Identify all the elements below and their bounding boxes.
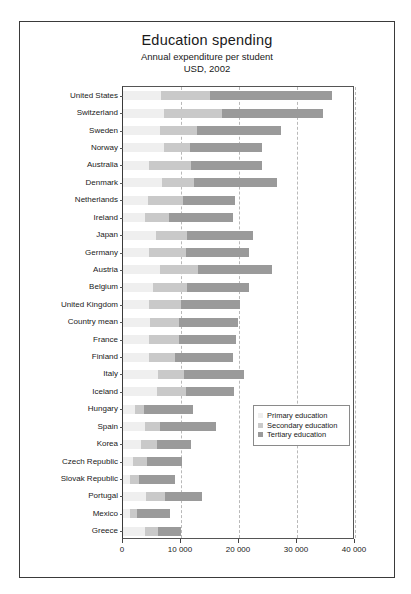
stacked-bar[interactable]: [123, 231, 253, 240]
stacked-bar[interactable]: [123, 248, 249, 257]
bar-segment-secondary[interactable]: [149, 161, 191, 170]
stacked-bar[interactable]: [123, 161, 262, 170]
bar-segment-secondary[interactable]: [133, 457, 147, 466]
bar-segment-secondary[interactable]: [150, 318, 180, 327]
bar-segment-primary[interactable]: [123, 300, 149, 309]
stacked-bar[interactable]: [123, 422, 216, 431]
bar-segment-tertiary[interactable]: [181, 300, 240, 309]
bar-segment-primary[interactable]: [123, 335, 149, 344]
stacked-bar[interactable]: [123, 178, 277, 187]
stacked-bar[interactable]: [123, 509, 170, 518]
bar-segment-secondary[interactable]: [156, 231, 187, 240]
bar-segment-secondary[interactable]: [146, 492, 165, 501]
bar-segment-tertiary[interactable]: [198, 265, 272, 274]
bar-segment-tertiary[interactable]: [190, 143, 263, 152]
bar-segment-tertiary[interactable]: [184, 370, 244, 379]
stacked-bar[interactable]: [123, 405, 193, 414]
bar-segment-tertiary[interactable]: [165, 492, 203, 501]
stacked-bar[interactable]: [123, 265, 272, 274]
bar-segment-primary[interactable]: [123, 422, 145, 431]
bar-segment-primary[interactable]: [123, 265, 160, 274]
bar-segment-tertiary[interactable]: [186, 387, 234, 396]
bar-segment-primary[interactable]: [123, 318, 150, 327]
bar-segment-primary[interactable]: [123, 440, 141, 449]
legend-item[interactable]: Tertiary education: [258, 431, 344, 439]
bar-segment-primary[interactable]: [123, 509, 130, 518]
stacked-bar[interactable]: [123, 283, 249, 292]
bar-segment-tertiary[interactable]: [169, 213, 233, 222]
bar-segment-tertiary[interactable]: [158, 527, 181, 536]
stacked-bar[interactable]: [123, 387, 234, 396]
stacked-bar[interactable]: [123, 196, 235, 205]
bar-segment-secondary[interactable]: [153, 283, 188, 292]
bar-segment-tertiary[interactable]: [187, 231, 254, 240]
bar-segment-primary[interactable]: [123, 475, 130, 484]
bar-segment-secondary[interactable]: [135, 405, 144, 414]
stacked-bar[interactable]: [123, 91, 332, 100]
bar-segment-primary[interactable]: [123, 143, 164, 152]
bar-segment-tertiary[interactable]: [191, 161, 262, 170]
stacked-bar[interactable]: [123, 527, 181, 536]
bar-segment-primary[interactable]: [123, 231, 156, 240]
bar-segment-tertiary[interactable]: [157, 440, 192, 449]
bar-segment-primary[interactable]: [123, 457, 133, 466]
bar-segment-tertiary[interactable]: [179, 318, 238, 327]
bar-segment-secondary[interactable]: [149, 248, 186, 257]
stacked-bar[interactable]: [123, 143, 262, 152]
stacked-bar[interactable]: [123, 440, 191, 449]
bar-segment-primary[interactable]: [123, 353, 149, 362]
bar-segment-primary[interactable]: [123, 283, 153, 292]
bar-segment-primary[interactable]: [123, 109, 164, 118]
bar-segment-tertiary[interactable]: [175, 353, 234, 362]
bar-segment-secondary[interactable]: [145, 213, 169, 222]
bar-segment-secondary[interactable]: [164, 109, 222, 118]
bar-segment-primary[interactable]: [123, 370, 158, 379]
bar-segment-secondary[interactable]: [130, 475, 139, 484]
stacked-bar[interactable]: [123, 335, 236, 344]
stacked-bar[interactable]: [123, 318, 238, 327]
bar-segment-primary[interactable]: [123, 527, 145, 536]
bar-segment-tertiary[interactable]: [137, 509, 170, 518]
bar-segment-tertiary[interactable]: [183, 196, 235, 205]
bar-segment-secondary[interactable]: [148, 196, 183, 205]
stacked-bar[interactable]: [123, 126, 281, 135]
bar-segment-tertiary[interactable]: [186, 248, 250, 257]
bar-segment-secondary[interactable]: [158, 370, 184, 379]
bar-segment-primary[interactable]: [123, 248, 149, 257]
bar-segment-tertiary[interactable]: [194, 178, 277, 187]
bar-segment-primary[interactable]: [123, 178, 162, 187]
bar-segment-tertiary[interactable]: [210, 91, 332, 100]
stacked-bar[interactable]: [123, 370, 244, 379]
legend-item[interactable]: Secondary education: [258, 422, 344, 430]
bar-segment-primary[interactable]: [123, 405, 135, 414]
stacked-bar[interactable]: [123, 300, 240, 309]
bar-segment-secondary[interactable]: [149, 353, 175, 362]
bar-segment-secondary[interactable]: [157, 387, 186, 396]
bar-segment-primary[interactable]: [123, 387, 157, 396]
bar-segment-primary[interactable]: [123, 213, 145, 222]
stacked-bar[interactable]: [123, 457, 182, 466]
stacked-bar[interactable]: [123, 475, 175, 484]
bar-segment-tertiary[interactable]: [147, 457, 182, 466]
bar-segment-secondary[interactable]: [149, 335, 179, 344]
legend-item[interactable]: Primary education: [258, 412, 344, 420]
bar-segment-secondary[interactable]: [161, 91, 210, 100]
stacked-bar[interactable]: [123, 492, 202, 501]
bar-segment-secondary[interactable]: [164, 143, 190, 152]
bar-segment-primary[interactable]: [123, 161, 149, 170]
bar-segment-tertiary[interactable]: [144, 405, 193, 414]
bar-segment-tertiary[interactable]: [179, 335, 236, 344]
bar-segment-primary[interactable]: [123, 91, 161, 100]
bar-segment-secondary[interactable]: [160, 265, 199, 274]
stacked-bar[interactable]: [123, 109, 323, 118]
bar-segment-secondary[interactable]: [162, 178, 194, 187]
bar-segment-secondary[interactable]: [149, 300, 181, 309]
bar-segment-primary[interactable]: [123, 492, 146, 501]
bar-segment-tertiary[interactable]: [160, 422, 217, 431]
bar-segment-secondary[interactable]: [141, 440, 157, 449]
bar-segment-tertiary[interactable]: [222, 109, 324, 118]
bar-segment-secondary[interactable]: [145, 527, 158, 536]
bar-segment-tertiary[interactable]: [139, 475, 176, 484]
stacked-bar[interactable]: [123, 213, 233, 222]
bar-segment-secondary[interactable]: [130, 509, 137, 518]
